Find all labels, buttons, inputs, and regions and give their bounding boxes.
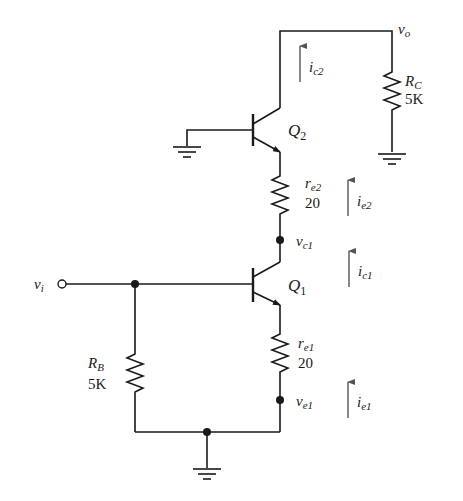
ground-icon (173, 147, 201, 157)
current-arrow-ic1: ic1 (349, 251, 373, 287)
svg-text:ve1: ve1 (296, 393, 313, 411)
svg-text:ie2: ie2 (357, 193, 372, 211)
output-node-label: vo (398, 21, 411, 39)
ground-icon (378, 154, 406, 164)
transistor-q1 (253, 262, 280, 305)
q2-base-wire (187, 130, 253, 146)
output-wire (280, 31, 392, 108)
svg-text:vc1: vc1 (296, 233, 313, 251)
node-vc1: vc1 (276, 233, 313, 262)
bottom-wire (135, 428, 280, 468)
resistor-rc-label: RC 5K (404, 73, 424, 107)
svg-text:re1: re1 (298, 335, 314, 353)
current-arrow-ie2: ie2 (348, 180, 372, 216)
svg-text:re2: re2 (305, 175, 322, 193)
circuit-diagram: vo RC 5K ic2 Q2 re2 20 (0, 0, 463, 501)
current-arrow-ie1: ie1 (348, 382, 372, 418)
svg-text:ie1: ie1 (357, 394, 372, 412)
svg-text:5K: 5K (405, 91, 424, 107)
ground-icon (193, 469, 221, 479)
transistor-q2-label: Q2 (288, 121, 306, 143)
svg-text:20: 20 (298, 355, 313, 371)
transistor-q2 (253, 108, 280, 152)
resistor-rb-label: RB 5K (87, 355, 107, 392)
resistor-re1-label: re1 20 (298, 335, 314, 371)
svg-text:vo: vo (398, 21, 411, 39)
resistor-rc (384, 70, 400, 152)
svg-text:ic1: ic1 (358, 263, 373, 281)
svg-text:Q2: Q2 (288, 121, 306, 143)
svg-text:5K: 5K (88, 376, 107, 392)
svg-text:RC: RC (404, 73, 422, 91)
resistor-rb (127, 284, 143, 432)
current-arrow-ic2: ic2 (300, 46, 324, 82)
node-ve1: ve1 (276, 393, 313, 411)
resistor-re2 (272, 152, 288, 240)
resistor-re1 (272, 305, 288, 432)
transistor-q1-label: Q1 (288, 276, 306, 298)
svg-text:Q1: Q1 (288, 276, 306, 298)
svg-text:RB: RB (87, 355, 104, 373)
svg-text:ic2: ic2 (309, 59, 324, 77)
resistor-re2-label: re2 20 (305, 175, 322, 211)
svg-text:vi: vi (34, 276, 44, 294)
input-terminal: vi (34, 276, 253, 294)
svg-text:20: 20 (305, 195, 320, 211)
